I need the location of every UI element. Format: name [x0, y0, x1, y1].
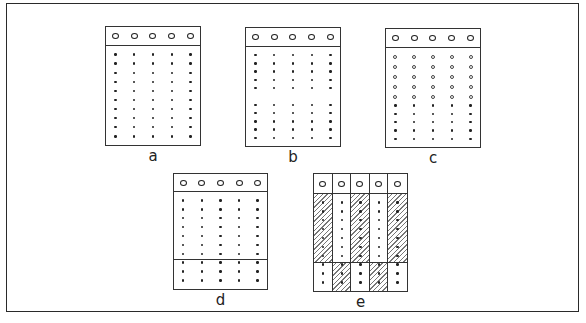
- dot-icon: [171, 135, 173, 137]
- header-cell: [351, 174, 370, 193]
- dot-icon: [396, 281, 398, 283]
- dot-icon: [394, 129, 396, 131]
- dot-icon: [171, 72, 173, 74]
- dot-icon: [256, 279, 258, 281]
- dot-icon: [219, 217, 221, 219]
- dot-icon: [311, 104, 313, 106]
- dot-icon: [256, 199, 258, 201]
- panel-header: [246, 28, 340, 47]
- dot-column: [386, 52, 405, 143]
- circle-icon: [392, 35, 399, 41]
- dot-icon: [394, 113, 396, 115]
- dot-icon: [256, 253, 258, 255]
- dot-column: [181, 50, 200, 141]
- dot-icon: [341, 281, 343, 283]
- dot-icon: [133, 126, 135, 128]
- dot-column: [370, 198, 389, 287]
- dot-icon: [273, 112, 275, 114]
- dot-icon: [292, 62, 294, 64]
- circle-icon: [187, 33, 194, 39]
- dot-icon: [201, 279, 203, 281]
- dot-icon: [396, 263, 398, 265]
- dot-icon: [201, 253, 203, 255]
- dot-icon: [359, 272, 361, 274]
- dot-column: [230, 196, 249, 285]
- dot-icon: [238, 199, 240, 201]
- panel-label-d: d: [216, 291, 226, 309]
- dot-column: [211, 196, 230, 285]
- dot-column: [321, 51, 340, 142]
- dot-icon: [451, 129, 453, 131]
- dot-icon: [133, 72, 135, 74]
- dot-icon: [359, 263, 361, 265]
- dot-icon: [396, 228, 398, 230]
- dot-icon: [396, 210, 398, 212]
- dot-icon: [451, 121, 453, 123]
- dot-icon: [201, 235, 203, 237]
- dot-icon: [396, 246, 398, 248]
- dot-icon: [378, 263, 380, 265]
- dot-icon: [311, 120, 313, 122]
- dot-icon: [254, 62, 256, 64]
- panel-label-c: c: [429, 149, 437, 167]
- dot-icon: [329, 120, 331, 122]
- dot-icon: [254, 70, 256, 72]
- dot-icon: [114, 62, 116, 64]
- dot-icon: [133, 90, 135, 92]
- dot-icon: [329, 104, 331, 106]
- circle-icon: [394, 181, 401, 187]
- dot-icon: [133, 53, 135, 55]
- dot-icon: [114, 117, 116, 119]
- dot-icon: [182, 235, 184, 237]
- dot-icon: [238, 226, 240, 228]
- dot-icon: [292, 112, 294, 114]
- dot-icon: [182, 217, 184, 219]
- dot-icon: [329, 62, 331, 64]
- dot-icon: [378, 219, 380, 221]
- dot-icon: [311, 54, 313, 56]
- dot-icon: [238, 270, 240, 272]
- dot-icon: [322, 201, 324, 203]
- dot-icon: [378, 201, 380, 203]
- dot-icon: [311, 128, 313, 130]
- dot-icon: [329, 128, 331, 130]
- dot-icon: [292, 79, 294, 81]
- dot-icon: [292, 54, 294, 56]
- dot-icon: [182, 199, 184, 201]
- dot-icon: [219, 253, 221, 255]
- ring-icon: [469, 95, 473, 99]
- dot-icon: [273, 79, 275, 81]
- dot-icon: [201, 208, 203, 210]
- dot-icon: [413, 138, 415, 140]
- dot-icon: [256, 261, 258, 263]
- dot-icon: [322, 237, 324, 239]
- dot-icon: [341, 201, 343, 203]
- dot-icon: [359, 210, 361, 212]
- dot-icon: [378, 272, 380, 274]
- panel-header: [174, 174, 267, 192]
- dot-icon: [322, 210, 324, 212]
- dot-icon: [273, 128, 275, 130]
- dot-icon: [432, 113, 434, 115]
- dot-icon: [413, 129, 415, 131]
- dot-icon: [171, 99, 173, 101]
- dot-icon: [152, 126, 154, 128]
- dot-icon: [254, 120, 256, 122]
- dot-icon: [133, 135, 135, 137]
- panel-header: [386, 29, 480, 48]
- dot-icon: [341, 219, 343, 221]
- panel-c: [385, 28, 481, 148]
- dot-icon: [311, 87, 313, 89]
- circle-icon: [168, 33, 175, 39]
- dot-icon: [311, 79, 313, 81]
- dot-icon: [201, 199, 203, 201]
- dot-icon: [359, 281, 361, 283]
- dot-icon: [292, 70, 294, 72]
- dot-icon: [256, 244, 258, 246]
- dot-icon: [396, 272, 398, 274]
- ring-icon: [450, 65, 454, 69]
- dot-icon: [256, 217, 258, 219]
- circle-icon: [467, 35, 474, 41]
- dot-icon: [359, 255, 361, 257]
- dot-icon: [273, 54, 275, 56]
